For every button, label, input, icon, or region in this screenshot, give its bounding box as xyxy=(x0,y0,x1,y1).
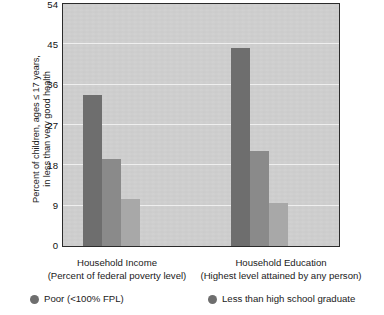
plot-area xyxy=(62,3,340,247)
bar xyxy=(269,203,288,246)
bar xyxy=(231,48,250,246)
y-tick-9: 9 xyxy=(32,201,58,211)
bar-chart: Percent of children, ages ≤ 17 years, in… xyxy=(0,0,384,315)
y-tick-36: 36 xyxy=(32,80,58,90)
x-group-label-line1: Household Education xyxy=(178,257,384,270)
legend-item-poor[interactable]: Poor (<100% FPL) xyxy=(30,293,124,305)
y-tick-18: 18 xyxy=(32,161,58,171)
x-group-label-line2: (Highest level attained by any person) xyxy=(178,270,384,283)
legend: Poor (<100% FPL) Less than high school g… xyxy=(0,291,384,313)
bar xyxy=(250,151,269,246)
gridline-27 xyxy=(63,124,339,125)
legend-dot-icon xyxy=(30,295,39,304)
legend-item-label: Less than high school graduate xyxy=(222,293,355,305)
y-tick-0: 0 xyxy=(32,241,58,251)
gridline-45 xyxy=(63,43,339,44)
y-tick-54: 54 xyxy=(32,0,58,10)
legend-dot-icon xyxy=(208,295,217,304)
y-tick-27: 27 xyxy=(32,121,58,131)
bar xyxy=(102,159,121,246)
legend-item-less-than-high-school[interactable]: Less than high school graduate xyxy=(208,293,355,305)
legend-item-label: Poor (<100% FPL) xyxy=(44,293,124,305)
y-tick-45: 45 xyxy=(32,40,58,50)
bar xyxy=(121,199,140,246)
gridline-36 xyxy=(63,84,339,85)
y-axis-tick-labels: 54 45 36 27 18 9 0 xyxy=(32,0,58,250)
gridline-54 xyxy=(63,3,339,4)
bar xyxy=(83,95,102,246)
x-group-label-household-education: Household Education (Highest level attai… xyxy=(178,257,384,282)
